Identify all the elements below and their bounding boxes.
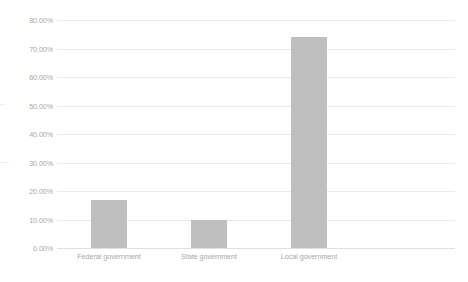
- y-tick-label-0: 0.00%: [13, 245, 53, 253]
- bar-state-government[interactable]: [191, 220, 227, 249]
- axis-baseline: [57, 248, 455, 249]
- y-tick-label-40: 40.00%: [13, 131, 53, 139]
- x-tick-label-federal-government: Federal government: [59, 252, 159, 262]
- y-tick-label-80: 80.00%: [13, 17, 53, 25]
- bar-local-government[interactable]: [291, 37, 327, 248]
- y-tick-label-10: 10.00%: [13, 217, 53, 225]
- bar-federal-government[interactable]: [91, 200, 127, 248]
- y-axis: 80.00% 70.00% 60.00% 50.00% 40.00% 30.00…: [12, 20, 53, 248]
- y-tick-label-70: 70.00%: [13, 46, 53, 54]
- x-tick-label-state-government: State government: [159, 252, 259, 262]
- bar-chart: 80.00% 70.00% 60.00% 50.00% 40.00% 30.00…: [0, 0, 468, 282]
- x-tick-label-local-government: Local government: [259, 252, 359, 262]
- x-axis: Federal government State government Loca…: [57, 252, 455, 268]
- scan-artifact: [0, 162, 9, 163]
- y-tick-label-60: 60.00%: [13, 74, 53, 82]
- y-tick-label-30: 30.00%: [13, 160, 53, 168]
- y-tick-label-50: 50.00%: [13, 103, 53, 111]
- bars-layer: [57, 20, 455, 248]
- scan-artifact: [0, 104, 6, 105]
- y-tick-label-20: 20.00%: [13, 188, 53, 196]
